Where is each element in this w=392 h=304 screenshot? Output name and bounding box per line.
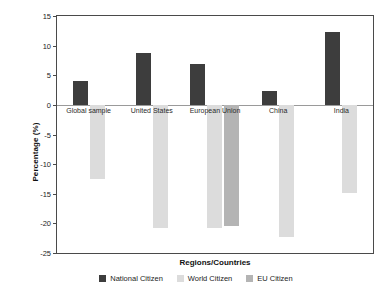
bar-world-citizen [90,105,105,179]
bar-national-citizen [73,81,88,105]
legend-label: World Citizen [188,274,232,283]
legend-item[interactable]: EU Citizen [246,274,292,283]
bar-world-citizen [279,105,294,237]
bar-group: United States [120,16,183,253]
x-axis-category-label: India [334,107,349,114]
chart-figure: Percentage (%) 151050-5-10-15-20-25Globa… [0,0,392,304]
chart-legend: National CitizenWorld CitizenEU Citizen [0,274,392,283]
bar-national-citizen [136,53,151,105]
x-axis-category-label: China [269,107,287,114]
y-axis-tick-label: -5 [44,130,51,139]
bar-group: India [310,16,373,253]
bar-national-citizen [325,32,340,105]
bar-eu-citizen [224,105,239,226]
bar-national-citizen [262,91,277,105]
legend-item[interactable]: National Citizen [99,274,163,283]
bar-world-citizen [153,105,168,228]
y-axis-tick-label: -15 [40,189,51,198]
x-axis-category-label: European Union [190,107,241,114]
y-axis-tick-label: 10 [43,41,51,50]
y-axis-tick-label: 0 [47,100,51,109]
legend-swatch-icon [177,275,184,282]
y-axis-title: Percentage (%) [31,122,40,181]
bar-world-citizen [207,105,222,228]
bar-group: European Union [183,16,246,253]
y-axis-tick-label: 5 [47,71,51,80]
legend-label: National Citizen [110,274,163,283]
y-axis-tick [53,253,57,254]
legend-item[interactable]: World Citizen [177,274,232,283]
bar-group: Global sample [57,16,120,253]
bar-world-citizen [342,105,357,193]
plot-area: 151050-5-10-15-20-25Global sampleUnited … [56,15,374,254]
x-axis-category-label: United States [131,107,173,114]
bar-group: China [247,16,310,253]
y-axis-tick-label: 15 [43,12,51,21]
y-axis-tick-label: -20 [40,219,51,228]
legend-swatch-icon [99,275,106,282]
legend-swatch-icon [246,275,253,282]
legend-label: EU Citizen [257,274,292,283]
plot-inner: 151050-5-10-15-20-25Global sampleUnited … [57,16,373,253]
bar-national-citizen [190,64,205,105]
y-axis-tick-label: -25 [40,249,51,258]
x-axis-category-label: Global sample [66,107,111,114]
x-axis-title: Regions/Countries [56,258,374,267]
y-axis-tick-label: -10 [40,160,51,169]
